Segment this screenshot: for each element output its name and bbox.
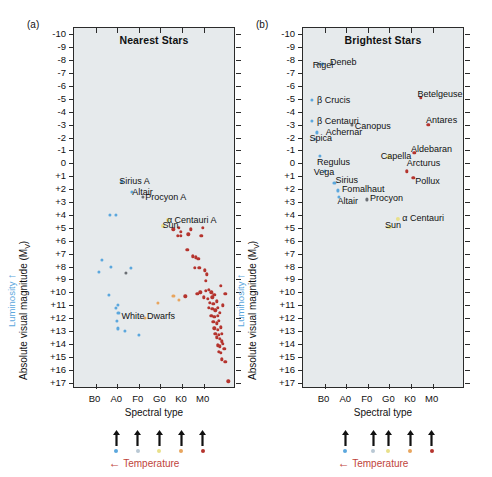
star-label: Antares	[426, 115, 457, 125]
x-tick-label: A0	[110, 393, 122, 404]
star-point	[215, 300, 218, 303]
y-tick-right	[465, 99, 470, 100]
x-tick-top	[182, 28, 183, 33]
star-label: Regulus	[317, 157, 350, 167]
y-tick	[298, 60, 303, 61]
y-tick-right	[465, 138, 470, 139]
star-point	[336, 189, 339, 192]
y-tick-label: +15	[33, 350, 66, 361]
star-point	[108, 213, 111, 216]
y-tick-right	[465, 163, 470, 164]
star-point	[216, 306, 219, 309]
x-tick	[389, 384, 390, 389]
star-point	[220, 332, 223, 335]
x-tick-top	[160, 28, 161, 33]
y-tick-label: +2	[262, 183, 295, 194]
y-tick-right	[236, 125, 241, 126]
temperature-arrow-icon	[341, 430, 350, 446]
x-tick-top	[411, 28, 412, 33]
y-tick	[298, 292, 303, 293]
y-tick-right	[465, 176, 470, 177]
star-label: β Crucis	[317, 95, 350, 105]
star-point	[219, 284, 222, 287]
y-tick-label: -5	[262, 92, 295, 103]
y-tick-label: -1	[33, 144, 66, 155]
y-axis-title: Absolute visual magnitude (MV)	[18, 241, 31, 380]
y-tick-label: -7	[33, 67, 66, 78]
y-tick	[298, 138, 303, 139]
y-tick-right	[236, 99, 241, 100]
x-axis-title: Spectral type	[125, 407, 183, 418]
y-tick-right	[236, 176, 241, 177]
x-tick	[160, 384, 161, 389]
x-tick-top	[346, 28, 347, 33]
y-tick	[298, 125, 303, 126]
plot-area-b: Brightest StarsRigelDenebBetelgeuseβ Cru…	[302, 27, 464, 388]
star-point	[189, 227, 192, 230]
star-point	[310, 119, 313, 122]
y-tick	[69, 318, 74, 319]
y-axis-title: Absolute visual magnitude (MV)	[247, 241, 260, 380]
star-point	[130, 266, 133, 269]
star-point	[123, 329, 126, 332]
temperature-swatch	[343, 449, 347, 453]
y-tick-right	[236, 202, 241, 203]
x-tick	[182, 384, 183, 389]
y-tick-label: +13	[33, 324, 66, 335]
y-tick-label: +12	[33, 312, 66, 323]
x-tick-top	[117, 28, 118, 33]
x-tick	[368, 384, 369, 389]
y-tick-label: -5	[33, 92, 66, 103]
y-tick-label: +11	[33, 299, 66, 310]
y-tick-right	[236, 357, 241, 358]
y-tick	[69, 60, 74, 61]
y-tick	[69, 163, 74, 164]
star-point	[116, 304, 119, 307]
luminosity-axis-label: Luminosity ↑	[5, 273, 17, 327]
star-point	[221, 342, 224, 345]
y-tick	[69, 176, 74, 177]
x-tick-label: A0	[339, 393, 351, 404]
x-tick	[433, 384, 434, 389]
y-tick-label: -8	[33, 54, 66, 65]
x-tick-label: F0	[361, 393, 372, 404]
y-tick	[69, 125, 74, 126]
y-tick	[69, 47, 74, 48]
star-label: Deneb	[330, 57, 357, 67]
y-tick	[69, 305, 74, 306]
y-tick-right	[465, 357, 470, 358]
star-point	[222, 347, 225, 350]
y-tick-label: -2	[33, 131, 66, 142]
y-tick	[298, 112, 303, 113]
y-tick-right	[236, 241, 241, 242]
y-tick-label: +12	[262, 312, 295, 323]
y-tick	[69, 241, 74, 242]
y-tick	[69, 292, 74, 293]
y-tick-label: -3	[262, 118, 295, 129]
y-tick-right	[465, 34, 470, 35]
y-tick-label: +11	[262, 299, 295, 310]
y-tick	[298, 318, 303, 319]
star-point	[172, 295, 175, 298]
star-label: Aldebaran	[411, 144, 452, 154]
y-tick-label: -9	[33, 41, 66, 52]
y-tick-label: +3	[33, 196, 66, 207]
y-tick-right	[236, 383, 241, 384]
star-point	[201, 226, 204, 229]
temperature-swatch	[430, 449, 434, 453]
x-axis-title: Spectral type	[354, 407, 412, 418]
y-tick	[69, 383, 74, 384]
y-tick-right	[465, 60, 470, 61]
y-tick-label: +8	[262, 260, 295, 271]
star-label: Procyon A	[145, 192, 186, 202]
temperature-label: ← Temperature	[338, 456, 409, 470]
y-tick	[69, 357, 74, 358]
star-point	[196, 257, 199, 260]
star-point	[211, 296, 214, 299]
x-tick-top	[433, 28, 434, 33]
y-tick-right	[465, 215, 470, 216]
y-tick	[298, 99, 303, 100]
y-tick	[298, 86, 303, 87]
temperature-arrow-icon	[369, 430, 378, 446]
star-label: Pollux	[415, 176, 440, 186]
